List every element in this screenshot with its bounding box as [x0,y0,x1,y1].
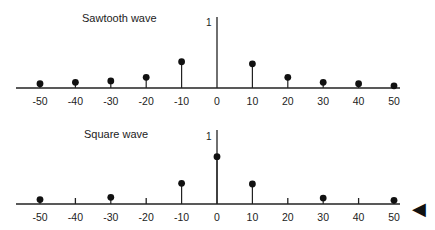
stem-marker [391,82,398,89]
x-tick-label: -50 [32,95,47,107]
stem-marker [214,153,221,160]
stem-marker [178,58,185,65]
x-tick-label: -10 [174,95,189,107]
x-tick-label: 20 [282,95,294,107]
fourier-spectra-figure: 1Sawtooth wave-50-40-30-20-1001020304050… [0,0,435,230]
stem-marker [391,197,398,204]
stem-marker [355,80,362,87]
stem-marker [143,74,150,81]
x-tick-label: 0 [214,95,220,107]
x-tick-label: 50 [388,211,400,223]
x-tick-label: -10 [174,211,189,223]
y-tick-label: 1 [206,131,212,142]
plot-title: Sawtooth wave [82,12,157,24]
x-tick-label: -50 [32,211,47,223]
stem-marker [107,78,114,85]
stem-marker [72,79,79,86]
x-tick-label: -20 [139,211,154,223]
x-tick-label: 10 [247,211,259,223]
stem-marker [320,195,327,202]
x-tick-label: 0 [214,211,220,223]
x-tick-label: -20 [139,95,154,107]
x-tick-label: 30 [317,211,329,223]
x-tick-label: -40 [68,95,83,107]
stem-marker [37,196,44,203]
x-tick-label: 40 [353,95,365,107]
stem-marker [107,194,114,201]
y-tick-label: 1 [206,17,212,28]
stem-marker [320,79,327,86]
x-tick-label: -30 [103,95,118,107]
x-tick-label: -30 [103,211,118,223]
x-tick-label: 50 [388,95,400,107]
x-tick-label: 20 [282,211,294,223]
stem-plot-2: 1Square wave-50-40-30-20-1001020304050 [16,128,400,223]
stem-marker [249,60,256,67]
stem-marker [37,80,44,87]
x-tick-label: 10 [247,95,259,107]
x-tick-label: 30 [317,95,329,107]
stem-marker [284,74,291,81]
left-arrow-icon: ◀ [412,200,426,218]
stem-marker [178,180,185,187]
stem-plot-1: 1Sawtooth wave-50-40-30-20-1001020304050 [16,12,400,107]
x-tick-label: -40 [68,211,83,223]
plot-title: Square wave [84,128,148,140]
x-tick-label: 40 [353,211,365,223]
stem-marker [249,181,256,188]
